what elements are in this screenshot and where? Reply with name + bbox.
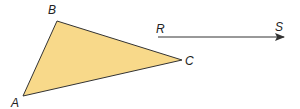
- geometry-diagram: B A C R S: [0, 0, 300, 109]
- diagram-svg: B A C R S: [0, 0, 300, 109]
- ray-label-r: R: [156, 22, 165, 36]
- vertex-label-b: B: [48, 3, 56, 17]
- ray-label-s: S: [275, 20, 283, 34]
- vertex-label-a: A: [10, 96, 19, 109]
- vertex-label-c: C: [185, 54, 194, 68]
